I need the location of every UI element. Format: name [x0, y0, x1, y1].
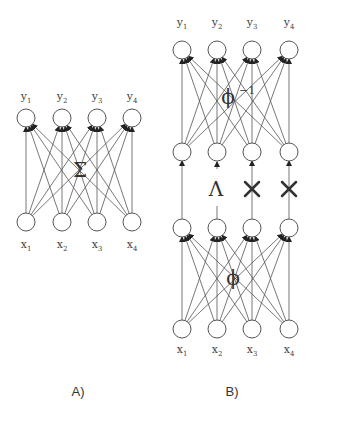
sum-operator: Σ	[73, 158, 87, 182]
svg-text:ϕ: ϕ	[221, 85, 235, 109]
panel-a-edge-3-4	[98, 127, 130, 221]
diagram-canvas: y1x1y2x2y3x3y4x4y1x1y2x2y3x3y4x4 Σ ϕ −1 …	[0, 0, 362, 421]
phi-operator: ϕ	[226, 266, 240, 290]
panel-a-input-node-4	[123, 213, 141, 231]
panel-a-input-label-3: x3	[92, 238, 103, 253]
panel-b-lower-mid-node-2	[208, 219, 226, 237]
panel-b-upper-edge-3-4	[253, 58, 286, 150]
panel-b-output-label-1: y1	[176, 16, 188, 31]
panel-a-output-label-1: y1	[20, 90, 32, 105]
panel-b-output-node-2	[208, 41, 226, 59]
caption-b: B)	[226, 384, 239, 399]
panel-b-upper-edge-3-1	[187, 57, 251, 150]
panel-b-upper-edge-1-3	[183, 57, 247, 150]
panel-b-input-label-3: x3	[247, 343, 258, 358]
diagram: y1x1y2x2y3x3y4x4y1x1y2x2y3x3y4x4 Σ ϕ −1 …	[0, 0, 362, 421]
panel-b-input-node-4	[280, 320, 298, 338]
panel-b-input-node-3	[243, 320, 261, 338]
panel-a-input-label-1: x1	[21, 238, 32, 253]
panel-b-lower-edge-3-1	[187, 235, 251, 327]
panel-b-lower-edge-2-1	[185, 237, 216, 328]
panel-a-output-node-1	[17, 109, 35, 127]
panel-b-input-label-1: x1	[177, 343, 188, 358]
panel-a-input-node-3	[88, 213, 106, 231]
panel-b-output-label-3: y3	[246, 16, 258, 31]
panel-b-lower-mid-node-3	[243, 219, 261, 237]
panel-b-lower-mid-node-4	[280, 219, 298, 237]
panel-b-lower-edge-4-3	[255, 236, 288, 327]
panel-b-output-label-4: y4	[283, 16, 295, 31]
panel-a-input-label-4: x4	[127, 238, 138, 253]
panel-b-input-node-2	[208, 320, 226, 338]
panel-a-input-label-2: x2	[57, 238, 68, 253]
panel-a-input-node-1	[17, 213, 35, 231]
panel-b-output-label-2: y2	[211, 16, 223, 31]
panel-a-output-node-3	[88, 109, 106, 127]
panel-b-output-node-4	[280, 41, 298, 59]
panel-a-output-node-2	[53, 109, 71, 127]
panel-b-input-label-4: x4	[284, 343, 295, 358]
panel-b-lower-edge-3-4	[253, 236, 286, 327]
panel-a-input-node-2	[53, 213, 71, 231]
panel-b-upper-mid-node-3	[243, 143, 261, 161]
panel-b-input-label-2: x2	[212, 343, 223, 358]
panel-b-upper-mid-node-1	[173, 143, 191, 161]
caption-a: A)	[72, 384, 85, 399]
panel-b-upper-mid-node-2	[208, 143, 226, 161]
svg-text:−1: −1	[239, 84, 255, 97]
panel-a-output-label-4: y4	[126, 90, 138, 105]
panel-b-output-node-1	[173, 41, 191, 59]
panel-a-edge-1-2	[27, 127, 59, 221]
panel-b-output-node-3	[243, 41, 261, 59]
panel-b-lower-mid-node-1	[173, 219, 191, 237]
panel-b-input-node-1	[173, 320, 191, 338]
panel-a-output-node-4	[123, 109, 141, 127]
panel-a-output-label-3: y3	[91, 90, 103, 105]
panel-a-output-label-2: y2	[56, 90, 68, 105]
panel-a-edge-2-1	[29, 127, 61, 221]
panel-b-upper-edge-2-1	[185, 59, 216, 151]
panel-b-upper-mid-node-4	[280, 143, 298, 161]
lambda-operator: Λ	[208, 177, 224, 201]
panel-b-upper-edge-4-3	[255, 58, 288, 150]
